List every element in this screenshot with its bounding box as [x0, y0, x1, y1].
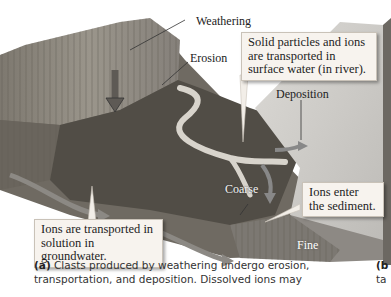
caption-b: (b ta: [376, 258, 391, 286]
caption-b-marker: (b: [376, 259, 388, 271]
label-weathering: Weathering: [196, 15, 251, 27]
label-deposition: Deposition: [276, 88, 329, 100]
caption-a-text: Clasts produced by weathering undergo er…: [34, 259, 309, 285]
panel-b-photo-edge: [383, 18, 391, 265]
caption-b-text: ta: [376, 273, 387, 285]
caption-a-marker: (a): [34, 259, 51, 271]
caption-a: (a) Clasts produced by weathering underg…: [34, 258, 334, 286]
callout-sediment: Ions enter the sediment.: [302, 182, 384, 217]
label-coarse: Coarse: [225, 183, 258, 195]
label-fine: Fine: [297, 239, 318, 251]
callout-surface-water: Solid particles and ions are transported…: [241, 32, 377, 81]
label-erosion: Erosion: [190, 52, 227, 64]
